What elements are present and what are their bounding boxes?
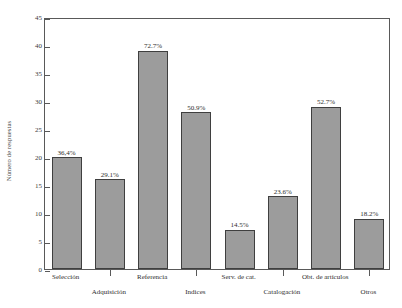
y-axis-tick-mark	[45, 243, 50, 244]
x-axis-category-label: Obt. de artículos	[302, 273, 348, 281]
y-axis-title: Número de respuestas	[0, 96, 16, 206]
bar-chart-figure: Número de respuestas 0510152025303540453…	[0, 0, 402, 308]
y-axis-tick-label: 5	[39, 238, 43, 246]
y-axis-tick-label: 30	[35, 98, 42, 106]
y-axis-tick-mark	[45, 271, 50, 272]
y-axis-tick-label: 25	[35, 126, 42, 134]
bar: 18.2%	[354, 219, 384, 269]
x-axis-tick-mark	[196, 269, 197, 276]
bar: 52.7%	[311, 107, 341, 269]
bar-value-label: 36,4%	[58, 149, 76, 157]
bar-value-label: 50.9%	[187, 104, 205, 112]
y-axis-tick-mark	[45, 159, 50, 160]
bar-value-label: 29.1%	[101, 171, 119, 179]
bar: 23.6%	[268, 196, 298, 269]
bar-value-label: 23.6%	[274, 188, 292, 196]
y-axis-tick-mark	[45, 187, 50, 188]
y-axis-tick-mark	[45, 47, 50, 48]
plot-area: 05101520253035404536,4%29.1%72.7%50.9%14…	[44, 18, 390, 270]
bar: 72.7%	[138, 51, 168, 269]
y-axis-tick-mark	[45, 215, 50, 216]
x-axis-category-label: Adquisición	[92, 288, 126, 296]
y-axis-tick-label: 35	[35, 70, 42, 78]
y-axis-tick-mark	[45, 19, 50, 20]
y-axis-tick-label: 0	[39, 266, 43, 274]
x-axis-tick-mark	[283, 269, 284, 276]
y-axis-tick-label: 45	[35, 14, 42, 22]
bar: 14.5%	[225, 230, 255, 269]
bar-value-label: 72.7%	[144, 42, 162, 50]
y-axis-tick-mark	[45, 75, 50, 76]
y-axis-title-text: Número de respuestas	[5, 121, 12, 181]
y-axis-tick-mark	[45, 131, 50, 132]
y-axis-tick-label: 15	[35, 182, 42, 190]
y-axis-tick-mark	[45, 103, 50, 104]
y-axis-tick-label: 40	[35, 42, 42, 50]
x-axis-category-label: Serv. de cat.	[222, 273, 256, 281]
y-axis-tick-label: 20	[35, 154, 42, 162]
y-axis-tick-label: 10	[35, 210, 42, 218]
bar: 36,4%	[52, 157, 82, 269]
x-axis-tick-mark	[110, 269, 111, 276]
x-axis-category-label: Referencia	[137, 273, 167, 281]
bar-value-label: 18.2%	[360, 210, 378, 218]
x-axis-category-label: Otros	[361, 288, 377, 296]
x-axis-category-label: Catalogación	[263, 288, 300, 296]
x-axis-tick-mark	[369, 269, 370, 276]
x-axis-category-label: Selección	[52, 273, 79, 281]
bar-value-label: 14.5%	[231, 221, 249, 229]
bar-value-label: 52.7%	[317, 98, 335, 106]
bar: 50.9%	[181, 112, 211, 269]
x-axis-category-label: Indices	[185, 288, 205, 296]
bar: 29.1%	[95, 179, 125, 269]
